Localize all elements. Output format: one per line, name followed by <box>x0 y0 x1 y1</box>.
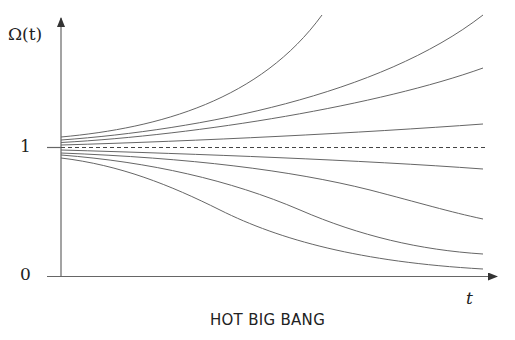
curve-7 <box>61 155 483 254</box>
curve-8 <box>61 158 483 269</box>
caption: HOT BIG BANG <box>0 311 515 329</box>
y-tick-label-1: 1 <box>20 136 31 156</box>
curve-1 <box>61 15 322 137</box>
curve-5 <box>61 150 483 169</box>
curve-2 <box>61 15 483 140</box>
y-axis-label: Ω(t) <box>8 24 42 44</box>
curve-3 <box>61 68 483 143</box>
x-axis-label: t <box>466 288 473 308</box>
chart-canvas <box>0 0 515 340</box>
y-tick-label-0: 0 <box>20 264 31 284</box>
curve-6 <box>61 153 483 219</box>
